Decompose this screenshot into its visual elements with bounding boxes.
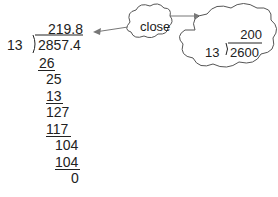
close-label: close — [140, 20, 170, 34]
step-1: 26 — [39, 56, 55, 70]
estimate-dividend: 2600 — [230, 46, 259, 60]
quotient: 219.8 — [40, 22, 83, 36]
step-6: 104 — [55, 138, 78, 152]
remainder: 0 — [71, 171, 79, 185]
divisor: 13 — [7, 38, 23, 52]
step-3: 13 — [46, 89, 62, 103]
division-bracket — [33, 35, 35, 53]
step-7: 104 — [55, 155, 78, 169]
estimate-divisor: 13 — [205, 46, 219, 60]
dividend: 2857.4 — [38, 38, 81, 52]
estimate-quotient: 200 — [228, 28, 262, 42]
step-5: 117 — [46, 122, 68, 136]
step-4: 127 — [46, 105, 69, 119]
arrowhead-left-icon — [93, 28, 101, 35]
step-2: 25 — [46, 72, 62, 86]
